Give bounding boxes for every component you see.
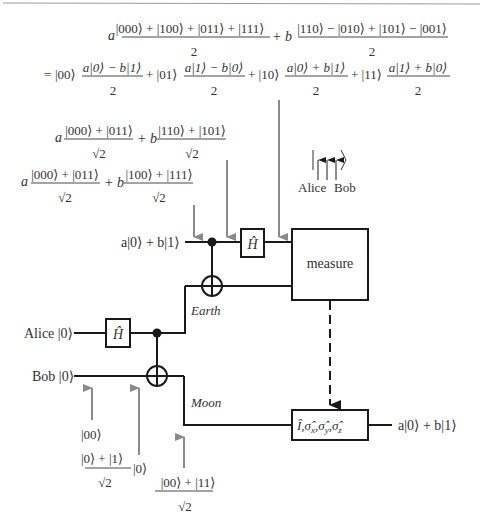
- svg-text:|000⟩ + |011⟩: |000⟩ + |011⟩: [31, 167, 99, 182]
- svg-text:+ b: + b: [104, 175, 124, 190]
- legend-bob: Bob: [334, 180, 356, 195]
- numerator: |000⟩ + |100⟩ + |011⟩ + |111⟩: [116, 21, 265, 36]
- svg-text:2: 2: [415, 83, 422, 98]
- control-dot: [208, 238, 217, 247]
- equation-after-h: |0⟩ + |1⟩ √2 |0⟩: [81, 451, 147, 490]
- moon-label: Moon: [190, 395, 221, 410]
- svg-text:√2: √2: [152, 190, 166, 205]
- initial-state: |00⟩: [81, 427, 102, 442]
- svg-text:|00⟩ + |11⟩: |00⟩ + |11⟩: [161, 475, 216, 490]
- output-state-label: a|0⟩ + b|1⟩: [398, 418, 457, 433]
- svg-text:measure: measure: [307, 256, 354, 271]
- earth-label: Earth: [190, 303, 221, 318]
- equation-bell-state: |00⟩ + |11⟩ √2: [155, 475, 215, 514]
- svg-text:√2: √2: [178, 499, 192, 514]
- hadamard-gate-alice: Ĥ: [106, 319, 130, 347]
- svg-text:2: 2: [211, 83, 218, 98]
- equals-sign: =: [44, 67, 51, 82]
- bob-wire-label: Bob |0⟩: [32, 369, 74, 384]
- svg-text:+ b: + b: [137, 131, 157, 146]
- denominator: 2: [191, 44, 198, 59]
- legend-alice: Alice: [298, 180, 326, 195]
- coef-a: a: [108, 28, 115, 43]
- svg-text:|000⟩ + |011⟩: |000⟩ + |011⟩: [65, 123, 133, 138]
- svg-text:√2: √2: [98, 475, 112, 490]
- alice-wire-label: Alice |0⟩: [24, 326, 73, 341]
- plus-b: + b: [272, 29, 292, 44]
- correction-gate: Î,σ̂x,σ̂y,σ̂z: [292, 410, 368, 440]
- ket: + |01⟩: [146, 67, 177, 82]
- hadamard-gate-top: Ĥ: [241, 229, 264, 257]
- numerator: a|1⟩ − b|0⟩: [185, 60, 244, 75]
- numerator: a|0⟩ + b|1⟩: [287, 60, 346, 75]
- ket: |00⟩: [55, 67, 76, 82]
- numerator: |110⟩ − |010⟩ + |101⟩ − |001⟩: [297, 21, 447, 36]
- svg-text:|0⟩: |0⟩: [133, 461, 147, 476]
- svg-text:|0⟩ + |1⟩: |0⟩ + |1⟩: [81, 451, 123, 466]
- svg-text:Î,σ̂x,σ̂y,σ̂z: Î,σ̂x,σ̂y,σ̂z: [296, 418, 343, 435]
- equation-after-entangle: a |000⟩ + |011⟩ √2 + b |100⟩ + |111⟩ √2: [21, 167, 193, 205]
- svg-text:2: 2: [313, 83, 320, 98]
- ket: + |11⟩: [351, 67, 382, 82]
- svg-text:Ĥ: Ĥ: [112, 326, 124, 342]
- svg-text:a: a: [21, 174, 28, 189]
- ket: + |10⟩: [248, 67, 279, 82]
- control-dot: [153, 329, 162, 338]
- svg-text:|100⟩ + |111⟩: |100⟩ + |111⟩: [125, 167, 192, 182]
- teleportation-diagram: a |000⟩ + |100⟩ + |011⟩ + |111⟩ 2 + b |1…: [0, 0, 483, 529]
- svg-text:a: a: [55, 130, 62, 145]
- equation-top-line2: = |00⟩ a|0⟩ − b|1⟩ 2 + |01⟩ a|1⟩ − b|0⟩ …: [44, 60, 450, 98]
- equation-after-cnot: a |000⟩ + |011⟩ √2 + b |110⟩ + |101⟩ √2: [55, 123, 226, 161]
- qubit-order-legend: Alice Bob: [298, 150, 356, 195]
- svg-text:|110⟩ + |101⟩: |110⟩ + |101⟩: [158, 123, 226, 138]
- svg-text:√2: √2: [92, 146, 106, 161]
- input-state-label: a|0⟩ + b|1⟩: [121, 235, 180, 250]
- equation-top-line1: a |000⟩ + |100⟩ + |011⟩ + |111⟩ 2 + b |1…: [108, 21, 448, 59]
- svg-text:Ĥ: Ĥ: [246, 236, 258, 252]
- numerator: a|0⟩ − b|1⟩: [83, 60, 142, 75]
- svg-text:√2: √2: [185, 146, 199, 161]
- svg-text:2: 2: [110, 83, 117, 98]
- measure-box: measure: [292, 229, 368, 300]
- svg-text:√2: √2: [58, 190, 72, 205]
- top-rule: [3, 3, 480, 4]
- numerator: a|1⟩ + b|0⟩: [389, 60, 448, 75]
- denominator: 2: [369, 44, 376, 59]
